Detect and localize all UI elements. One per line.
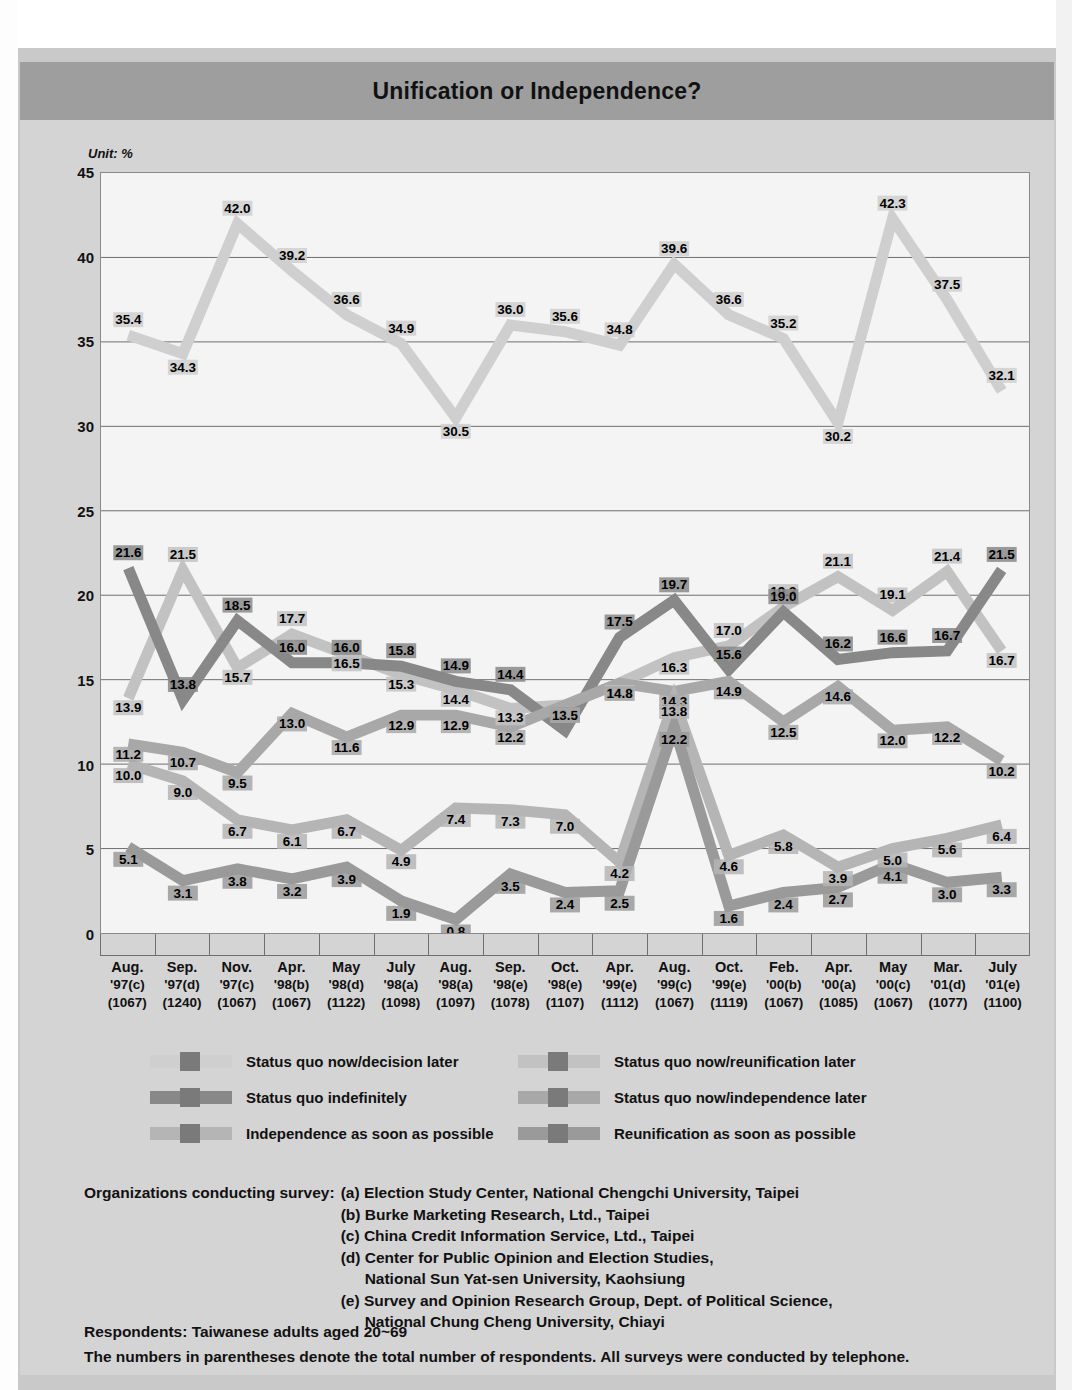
svg-text:13.0: 13.0	[279, 716, 305, 731]
x-label-year-org: '98(a)	[374, 976, 429, 994]
x-axis-tick	[319, 934, 320, 956]
data-point-label: 15.3	[386, 677, 416, 692]
data-point-label: 15.7	[223, 670, 253, 685]
x-axis-tick	[756, 934, 757, 956]
data-point-label: 34.3	[168, 360, 198, 375]
data-point-label: 16.0	[332, 640, 362, 655]
svg-text:17.5: 17.5	[606, 614, 633, 629]
x-label-year-org: '98(b)	[264, 976, 319, 994]
data-point-label: 16.7	[987, 653, 1017, 668]
x-label-month: Nov.	[209, 958, 264, 976]
data-point-label: 21.6	[113, 545, 143, 560]
svg-text:11.2: 11.2	[116, 747, 141, 762]
x-label-month: Aug.	[428, 958, 483, 976]
x-axis-tick	[155, 934, 156, 956]
legend-color-swatch	[150, 1055, 232, 1068]
y-axis-tick-label: 10	[77, 756, 94, 773]
data-point-label: 0.8	[441, 924, 471, 933]
x-axis-label-group: May'00(c)(1067)	[866, 958, 921, 1012]
data-point-label: 9.5	[223, 776, 253, 791]
svg-text:3.0: 3.0	[938, 887, 957, 902]
x-label-sample-size: (1085)	[811, 994, 866, 1012]
x-axis-tick	[647, 934, 648, 956]
svg-text:42.3: 42.3	[879, 196, 905, 211]
x-label-sample-size: (1107)	[538, 994, 593, 1012]
data-point-label: 2.5	[605, 896, 635, 911]
x-label-sample-size: (1067)	[264, 994, 319, 1012]
x-axis-label-group: Sep.'98(e)(1078)	[483, 958, 538, 1012]
svg-text:16.6: 16.6	[879, 630, 905, 645]
data-point-label: 16.7	[932, 628, 962, 643]
x-label-year-org: '00(b)	[756, 976, 811, 994]
x-axis-label-group: Apr.'00(a)(1085)	[811, 958, 866, 1012]
x-axis-label-group: Apr.'99(e)(1112)	[592, 958, 647, 1012]
x-axis-label-group: Sep.'97(d)(1240)	[155, 958, 210, 1012]
data-point-label: 2.7	[823, 892, 853, 907]
data-point-label: 37.5	[932, 277, 962, 292]
data-point-label: 3.5	[495, 879, 525, 894]
svg-text:3.9: 3.9	[829, 871, 848, 886]
svg-text:11.6: 11.6	[334, 740, 359, 755]
data-point-label: 14.9	[714, 684, 744, 699]
x-label-year-org: '00(a)	[811, 976, 866, 994]
svg-text:12.9: 12.9	[388, 718, 414, 733]
svg-text:6.7: 6.7	[337, 824, 356, 839]
data-point-label: 14.4	[441, 692, 471, 707]
legend-item: Status quo now/independence later	[518, 1084, 867, 1110]
data-point-label: 39.2	[277, 248, 307, 263]
data-point-label: 3.1	[168, 886, 198, 901]
organization-entry: (d) Center for Public Opinion and Electi…	[341, 1247, 833, 1269]
svg-text:3.9: 3.9	[337, 872, 356, 887]
svg-text:15.6: 15.6	[716, 647, 742, 662]
svg-text:21.1: 21.1	[825, 554, 852, 569]
x-axis-label-group: Aug.'98(a)(1097)	[428, 958, 483, 1012]
legend-marker-icon	[548, 1124, 568, 1143]
parentheses-note: The numbers in parentheses denote the to…	[84, 1345, 909, 1368]
svg-text:2.4: 2.4	[556, 897, 575, 912]
data-point-label: 19.7	[659, 577, 689, 592]
svg-text:12.2: 12.2	[497, 730, 523, 745]
x-axis-baseline	[100, 955, 1030, 956]
data-point-label: 16.5	[332, 656, 362, 671]
svg-text:16.5: 16.5	[334, 656, 361, 671]
x-label-year-org: '99(e)	[702, 976, 757, 994]
svg-text:42.0: 42.0	[224, 201, 250, 216]
svg-text:2.4: 2.4	[774, 897, 793, 912]
svg-text:9.5: 9.5	[228, 776, 247, 791]
data-point-label: 3.2	[277, 884, 307, 899]
data-point-label: 4.1	[878, 869, 908, 884]
legend-color-swatch	[150, 1127, 232, 1140]
x-label-sample-size: (1240)	[155, 994, 210, 1012]
data-point-label: 4.2	[605, 866, 635, 881]
svg-text:10.2: 10.2	[989, 764, 1015, 779]
x-axis-label-group: Mar.'01(d)(1077)	[921, 958, 976, 1012]
data-point-label: 6.7	[223, 824, 253, 839]
x-axis-tick	[866, 934, 867, 956]
legend-item: Status quo now/decision later	[150, 1048, 459, 1074]
organizations-list: (a) Election Study Center, National Chen…	[341, 1182, 833, 1333]
x-axis-tick-strip	[100, 934, 1030, 956]
x-label-month: Sep.	[483, 958, 538, 976]
svg-text:6.7: 6.7	[228, 824, 247, 839]
legend-item: Reunification as soon as possible	[518, 1120, 856, 1146]
x-axis-label-group: Aug.'97(c)(1067)	[100, 958, 155, 1012]
data-point-label: 15.6	[714, 647, 744, 662]
x-label-year-org: '00(c)	[866, 976, 921, 994]
data-point-label: 12.2	[932, 730, 962, 745]
svg-text:35.2: 35.2	[770, 316, 796, 331]
y-axis-labels: 051015202530354045	[44, 160, 94, 950]
svg-text:5.6: 5.6	[938, 842, 957, 857]
organizations-heading: Organizations conducting survey:	[84, 1182, 335, 1333]
svg-text:4.9: 4.9	[392, 854, 411, 869]
data-point-label: 16.6	[878, 630, 908, 645]
respondents-note: Respondents: Taiwanese adults aged 20~69	[84, 1320, 407, 1343]
svg-text:7.0: 7.0	[556, 819, 575, 834]
y-axis-tick-label: 25	[77, 502, 94, 519]
x-label-sample-size: (1067)	[100, 994, 155, 1012]
svg-text:3.1: 3.1	[174, 886, 193, 901]
x-label-sample-size: (1112)	[592, 994, 647, 1012]
x-label-sample-size: (1122)	[319, 994, 374, 1012]
y-axis-tick-label: 20	[77, 587, 94, 604]
x-label-sample-size: (1100)	[975, 994, 1030, 1012]
page-edge-top	[0, 0, 1072, 48]
